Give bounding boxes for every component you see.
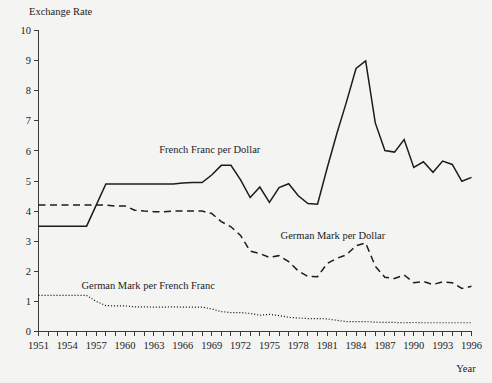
y-axis-title: Exchange Rate: [29, 6, 93, 17]
series-annotation-0: French Franc per Dollar: [159, 144, 261, 155]
x-tick-label: 1963: [143, 340, 164, 351]
plot-background: [0, 0, 492, 383]
x-tick-label: 1981: [317, 340, 338, 351]
x-tick-label: 1990: [403, 340, 424, 351]
x-tick-label: 1978: [288, 340, 309, 351]
chart-canvas: 012345678910 195119541957196019631966196…: [0, 0, 492, 383]
exchange-rate-chart-figure: 012345678910 195119541957196019631966196…: [0, 0, 492, 383]
y-tick-label: 8: [26, 85, 31, 96]
x-tick-label: 1993: [432, 340, 453, 351]
series-annotation-2: German Mark per French Franc: [81, 280, 215, 291]
y-tick-label: 3: [26, 236, 31, 247]
y-tick-label: 5: [26, 176, 31, 187]
x-tick-label: 1984: [346, 340, 368, 351]
y-tick-label: 9: [26, 55, 31, 66]
y-tick-label: 4: [26, 206, 32, 217]
y-tick-label: 6: [26, 146, 31, 157]
x-tick-label: 1957: [86, 340, 107, 351]
x-tick-label: 1996: [461, 340, 482, 351]
series-annotation-1: German Mark per Dollar: [281, 230, 386, 241]
y-tick-label: 7: [26, 115, 31, 126]
y-tick-label: 0: [26, 326, 31, 337]
x-tick-label: 1954: [57, 340, 79, 351]
x-tick-label: 1960: [115, 340, 136, 351]
x-tick-label: 1966: [172, 340, 193, 351]
x-axis-title: Year: [456, 363, 476, 374]
x-tick-label: 1972: [230, 340, 251, 351]
x-tick-label: 1975: [259, 340, 280, 351]
y-tick-label: 1: [26, 296, 31, 307]
y-tick-label: 2: [26, 266, 31, 277]
x-tick-label: 1969: [201, 340, 222, 351]
x-tick-label: 1951: [28, 340, 49, 351]
y-tick-label: 10: [21, 25, 32, 36]
x-tick-label: 1987: [374, 340, 395, 351]
